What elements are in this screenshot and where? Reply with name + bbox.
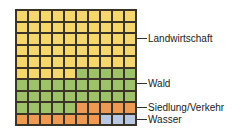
- label-wald: Wald: [137, 77, 170, 89]
- waffle-cell: [28, 79, 40, 91]
- waffle-cell: [16, 114, 28, 126]
- label-wasser: Wasser: [137, 113, 182, 125]
- waffle-cell: [112, 79, 124, 91]
- waffle-cell: [124, 91, 136, 103]
- leader-line: [137, 38, 147, 39]
- waffle-cell: [100, 79, 112, 91]
- waffle-cell: [16, 33, 28, 45]
- waffle-cell: [16, 56, 28, 68]
- waffle-cell: [40, 114, 52, 126]
- waffle-cell: [40, 33, 52, 45]
- waffle-cell: [76, 114, 88, 126]
- waffle-cell: [40, 56, 52, 68]
- waffle-cell: [124, 33, 136, 45]
- waffle-cell: [52, 10, 64, 22]
- waffle-grid: [15, 9, 137, 126]
- waffle-cell: [76, 10, 88, 22]
- waffle-cell: [28, 91, 40, 103]
- label-text: Wasser: [148, 114, 182, 125]
- waffle-cell: [64, 79, 76, 91]
- waffle-cell: [28, 56, 40, 68]
- waffle-cell: [16, 91, 28, 103]
- waffle-cell: [52, 56, 64, 68]
- waffle-cell: [112, 68, 124, 80]
- waffle-cell: [100, 91, 112, 103]
- waffle-cell: [88, 79, 100, 91]
- waffle-cell: [124, 114, 136, 126]
- waffle-cell: [40, 79, 52, 91]
- waffle-cell: [88, 33, 100, 45]
- waffle-cell: [40, 45, 52, 57]
- waffle-cell: [112, 22, 124, 34]
- waffle-cell: [64, 68, 76, 80]
- waffle-cell: [28, 114, 40, 126]
- waffle-cell: [124, 68, 136, 80]
- waffle-cell: [76, 79, 88, 91]
- label-landwirtschaft: Landwirtschaft: [137, 32, 212, 44]
- waffle-cell: [16, 45, 28, 57]
- waffle-cell: [100, 102, 112, 114]
- label-text: Siedlung/Verkehr: [148, 102, 224, 113]
- waffle-cell: [76, 33, 88, 45]
- leader-line: [137, 107, 147, 108]
- waffle-cell: [28, 22, 40, 34]
- waffle-cell: [88, 68, 100, 80]
- waffle-cell: [88, 10, 100, 22]
- waffle-cell: [64, 22, 76, 34]
- waffle-cell: [16, 22, 28, 34]
- waffle-cell: [112, 56, 124, 68]
- waffle-cell: [52, 114, 64, 126]
- waffle-cell: [100, 22, 112, 34]
- waffle-cell: [100, 68, 112, 80]
- waffle-cell: [76, 22, 88, 34]
- waffle-cell: [124, 45, 136, 57]
- waffle-cell: [112, 33, 124, 45]
- waffle-cell: [112, 10, 124, 22]
- waffle-cell: [28, 68, 40, 80]
- waffle-cell: [112, 45, 124, 57]
- waffle-cell: [64, 56, 76, 68]
- waffle-cell: [64, 45, 76, 57]
- waffle-cell: [64, 91, 76, 103]
- waffle-cell: [100, 45, 112, 57]
- waffle-cell: [100, 33, 112, 45]
- waffle-cell: [28, 102, 40, 114]
- waffle-cell: [52, 68, 64, 80]
- waffle-cell: [52, 22, 64, 34]
- leader-line: [137, 83, 147, 84]
- waffle-cell: [28, 45, 40, 57]
- waffle-cell: [64, 102, 76, 114]
- waffle-cell: [112, 91, 124, 103]
- waffle-cell: [52, 33, 64, 45]
- waffle-cell: [100, 10, 112, 22]
- waffle-cell: [112, 114, 124, 126]
- waffle-cell: [16, 102, 28, 114]
- waffle-cell: [40, 91, 52, 103]
- waffle-cell: [88, 114, 100, 126]
- waffle-cell: [16, 10, 28, 22]
- waffle-cell: [100, 114, 112, 126]
- waffle-cell: [64, 114, 76, 126]
- waffle-cell: [64, 33, 76, 45]
- waffle-cell: [28, 10, 40, 22]
- waffle-cell: [16, 68, 28, 80]
- label-text: Landwirtschaft: [148, 33, 212, 44]
- waffle-cell: [28, 33, 40, 45]
- waffle-cell: [40, 102, 52, 114]
- waffle-cell: [112, 102, 124, 114]
- waffle-cell: [52, 102, 64, 114]
- waffle-cell: [76, 91, 88, 103]
- waffle-cell: [88, 22, 100, 34]
- waffle-cell: [124, 22, 136, 34]
- waffle-cell: [76, 102, 88, 114]
- waffle-cell: [100, 56, 112, 68]
- leader-line: [137, 119, 147, 120]
- waffle-cell: [88, 102, 100, 114]
- waffle-cell: [88, 45, 100, 57]
- waffle-cell: [52, 79, 64, 91]
- waffle-cell: [76, 68, 88, 80]
- waffle-cell: [88, 56, 100, 68]
- waffle-cell: [40, 10, 52, 22]
- waffle-cell: [52, 45, 64, 57]
- waffle-cell: [64, 10, 76, 22]
